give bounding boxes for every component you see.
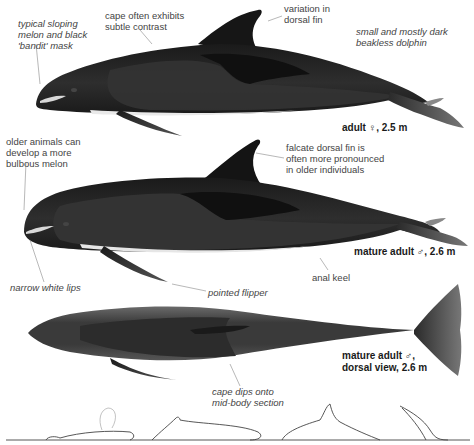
species-plate: typical sloping melon and black 'bandit'…	[0, 0, 474, 445]
annotation-cape-contrast: cape often exhibits subtle contrast	[105, 10, 184, 32]
annotation-cape-dips: cape dips onto mid-body section	[212, 386, 284, 408]
caption-adult-female: adult ♀, 2.5 m	[342, 122, 407, 134]
surfacing-steep-dive	[400, 406, 448, 440]
surfacing-arched-dive	[282, 404, 380, 440]
annotation-melon-mask: typical sloping melon and black 'bandit'…	[18, 18, 87, 51]
annotation-bulbous-melon: older animals can develop a more bulbous…	[6, 136, 80, 169]
annotation-falcate-dorsal: falcate dorsal fin is often more pronoun…	[286, 142, 384, 175]
surfacing-head-rise	[46, 431, 134, 440]
caption-mature-male: mature adult ♂, 2.6 m	[354, 246, 455, 258]
caption-dorsal-view: mature adult ♂, dorsal view, 2.6 m	[342, 350, 427, 374]
annotation-white-lips: narrow white lips	[10, 282, 81, 293]
annotation-summary: small and mostly dark beakless dolphin	[356, 26, 448, 48]
dolphin-mature-male	[24, 139, 468, 282]
surfacing-sequence	[6, 404, 470, 440]
annotation-anal-keel: anal keel	[312, 272, 350, 283]
annotation-pointed-flipper: pointed flipper	[208, 287, 268, 298]
surfacing-back	[152, 417, 261, 440]
annotation-dorsal-variation: variation in dorsal fin	[284, 3, 330, 25]
illustrations	[0, 0, 474, 445]
